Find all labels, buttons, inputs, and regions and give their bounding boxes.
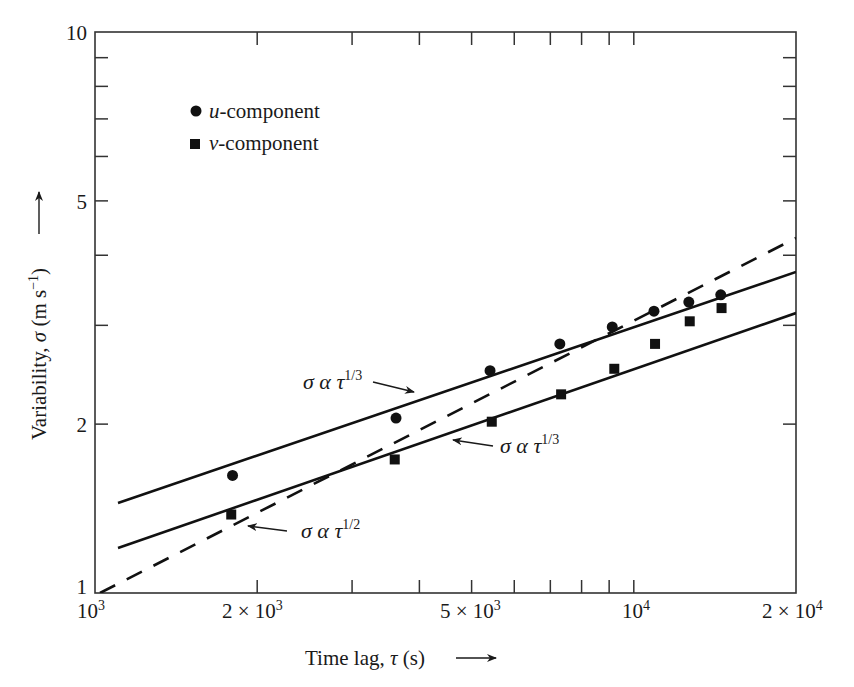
annotation-lower-text: σ α τ1/3 bbox=[500, 432, 559, 458]
legend-item-v: v-component bbox=[209, 131, 319, 155]
data-point bbox=[715, 289, 726, 300]
y-tick-labels: 10 5 2 1 bbox=[66, 21, 87, 599]
plot-frame bbox=[95, 32, 796, 593]
data-point bbox=[485, 365, 496, 376]
fit-line-v-one-third bbox=[118, 313, 796, 548]
legend-circle-marker-icon bbox=[191, 106, 202, 117]
data-point bbox=[227, 470, 238, 481]
fit-lines bbox=[100, 238, 796, 593]
chart: 10 5 2 1 103 2 × 103 5 × 103 104 2 × 104… bbox=[0, 0, 854, 687]
data-point bbox=[391, 413, 402, 424]
x-axis-title-text: Time lag, τ (s) bbox=[305, 646, 425, 670]
annotation-dashed-text: σ α τ1/2 bbox=[301, 517, 360, 543]
annotation-lower-arrow-icon bbox=[453, 440, 493, 446]
x-tick-1e4: 104 bbox=[622, 598, 650, 623]
legend: u-component v-component bbox=[190, 99, 320, 155]
fit-line-one-half-dashed bbox=[100, 238, 796, 593]
y-tick-2: 2 bbox=[77, 413, 88, 437]
y-axis-title: Variability, σ (m s−1) bbox=[26, 192, 51, 440]
data-point bbox=[390, 454, 400, 464]
data-point bbox=[683, 297, 694, 308]
data-point bbox=[648, 306, 659, 317]
annotation-upper: σ α τ1/3 bbox=[303, 368, 414, 394]
data-point bbox=[226, 510, 236, 520]
legend-square-marker-icon bbox=[190, 139, 200, 149]
x-tick-2e4: 2 × 104 bbox=[762, 598, 823, 623]
annotation-dashed-arrow-icon bbox=[248, 526, 287, 531]
annotation-lower: σ α τ1/3 bbox=[453, 432, 559, 458]
data-point bbox=[609, 364, 619, 374]
x-tick-1e3: 103 bbox=[77, 598, 105, 623]
data-point bbox=[650, 339, 660, 349]
data-point bbox=[685, 316, 695, 326]
annotation-dashed: σ α τ1/2 bbox=[248, 517, 360, 543]
fit-line-u-one-third bbox=[118, 272, 796, 503]
x-tick-labels: 103 2 × 103 5 × 103 104 2 × 104 bbox=[77, 598, 823, 623]
y-tick-10: 10 bbox=[66, 21, 87, 45]
x-tick-5e3: 5 × 103 bbox=[440, 598, 501, 623]
data-point bbox=[607, 321, 618, 332]
x-tick-2e3: 2 × 103 bbox=[222, 598, 283, 623]
y-tick-5: 5 bbox=[77, 190, 88, 214]
annotation-upper-text: σ α τ1/3 bbox=[303, 368, 362, 394]
tick-marks bbox=[95, 32, 796, 593]
y-axis-title-text: Variability, σ (m s−1) bbox=[26, 268, 51, 440]
x-axis-title: Time lag, τ (s) bbox=[305, 646, 496, 670]
legend-item-u: u-component bbox=[209, 99, 320, 123]
series-v-component bbox=[226, 303, 726, 519]
y-tick-1: 1 bbox=[77, 575, 88, 599]
data-point bbox=[487, 417, 497, 427]
data-point bbox=[556, 389, 566, 399]
series-u-component bbox=[227, 289, 726, 481]
data-point bbox=[717, 303, 727, 313]
annotation-upper-arrow-icon bbox=[373, 382, 414, 392]
data-point bbox=[554, 338, 565, 349]
